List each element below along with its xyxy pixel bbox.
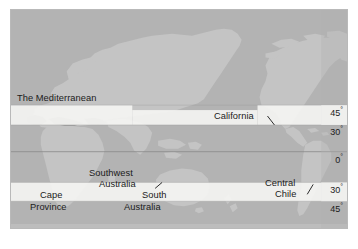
latitude-gutter-north-band [321, 105, 347, 125]
southern-climate-band [11, 182, 347, 201]
band-segment-asia [132, 110, 257, 125]
world-map-graphic [11, 10, 347, 228]
latitude-gutter-south-band [321, 182, 347, 201]
map-figure: The Mediterranean California Southwest A… [10, 9, 348, 229]
antarctica-landmass [11, 224, 347, 228]
band-segment-mediterranean [11, 105, 132, 125]
band-segment-southern [11, 182, 347, 201]
